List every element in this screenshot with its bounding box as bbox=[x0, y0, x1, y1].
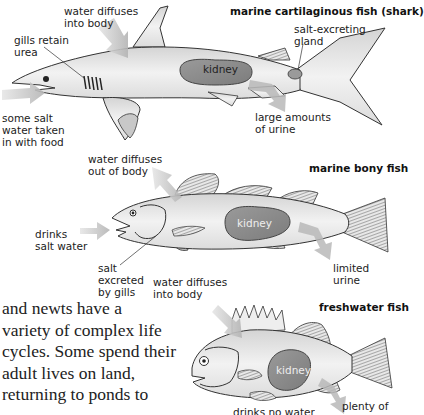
bony-water-out-label: water diffuses out of body bbox=[88, 153, 162, 177]
body-paragraph: and newts have a variety of complex life… bbox=[2, 298, 177, 406]
body-line: cycles. Some spend their bbox=[2, 341, 177, 363]
freshwater-urine-label: plenty of bbox=[342, 400, 389, 412]
bony-fish-illustration bbox=[80, 167, 388, 265]
freshwater-fish-title: freshwater fish bbox=[319, 301, 409, 313]
body-line: returning to ponds to bbox=[2, 384, 177, 406]
shark-water-in-label: water diffuses into body bbox=[64, 5, 138, 29]
shark-kidney-label: kidney bbox=[203, 63, 238, 75]
bony-urine-label: limited urine bbox=[333, 262, 369, 286]
shark-salt-gland-label: salt-excreting gland bbox=[294, 23, 366, 47]
shark-gills-label: gills retain urea bbox=[14, 34, 69, 58]
body-line: adult lives on land, bbox=[2, 363, 177, 385]
shark-salt-water-label: some salt water taken in with food bbox=[2, 112, 65, 148]
bony-salt-gills-label: salt excreted by gills bbox=[98, 262, 144, 298]
bony-kidney-label: kidney bbox=[237, 217, 272, 229]
body-line: and newts have a bbox=[2, 298, 177, 320]
freshwater-drinks-label: drinks no water bbox=[233, 406, 315, 415]
shark-title: marine cartilaginous fish (shark) bbox=[230, 5, 424, 17]
freshwater-fish-illustration bbox=[192, 305, 392, 414]
freshwater-kidney-label: kidney bbox=[276, 364, 311, 376]
bony-fish-title: marine bony fish bbox=[309, 162, 408, 174]
shark-urine-label: large amounts of urine bbox=[255, 111, 331, 135]
bony-drinks-label: drinks salt water bbox=[35, 228, 87, 252]
freshwater-water-in-label: water diffuses into body bbox=[153, 276, 227, 300]
body-line: variety of complex life bbox=[2, 320, 177, 342]
